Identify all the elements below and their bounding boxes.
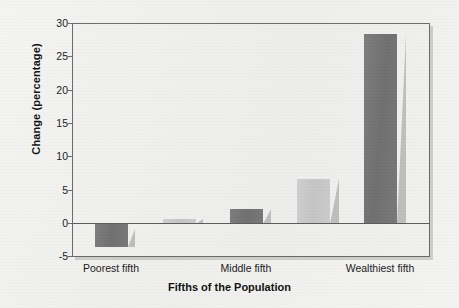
bar-shadow-poorest-fifth <box>128 229 135 247</box>
bar-fourth-fifth <box>297 179 330 224</box>
x-tick-label-middle-fifth: Middle fifth <box>221 262 272 274</box>
y-tick-mark-minus5 <box>68 256 73 257</box>
y-tick-label-15: 15 <box>42 118 68 128</box>
y-tick-label-minus5: -5 <box>42 251 68 261</box>
x-tick-label-poorest-fifth: Poorest fifth <box>83 262 139 274</box>
y-tick-mark-20 <box>68 90 73 91</box>
zero-baseline <box>72 223 430 224</box>
bar-body <box>364 34 397 224</box>
y-tick-mark-10 <box>68 156 73 157</box>
x-tick-label-wealthiest-fifth: Wealthiest fifth <box>346 262 415 274</box>
y-tick-mark-30 <box>68 23 73 24</box>
bar-wealthiest-fifth <box>364 34 397 224</box>
y-tick-label-10: 10 <box>42 151 68 161</box>
bar-middle-fifth <box>230 209 263 224</box>
bar-body <box>297 179 330 224</box>
y-tick-mark-5 <box>68 190 73 191</box>
bar-shadow-middle-fifth <box>263 209 271 224</box>
bar-body <box>95 224 128 247</box>
y-tick-label-30: 30 <box>42 18 68 28</box>
bar-poorest-fifth <box>95 224 128 247</box>
chart-figure: 30 25 20 15 10 5 0 -5 Change (percentage… <box>0 0 459 308</box>
y-tick-label-25: 25 <box>42 51 68 61</box>
y-axis: 30 25 20 15 10 5 0 -5 <box>38 0 68 308</box>
bar-body <box>230 209 263 224</box>
plot-area <box>72 23 430 257</box>
bar-shadow-wealthiest-fifth <box>397 34 406 224</box>
bar-shadow-fourth-fifth <box>330 179 339 224</box>
x-axis-title: Fifths of the Population <box>0 281 459 293</box>
y-tick-label-0: 0 <box>42 218 68 228</box>
y-axis-title: Change (percentage) <box>30 19 42 179</box>
y-tick-mark-0 <box>68 223 73 224</box>
y-tick-label-5: 5 <box>42 185 68 195</box>
y-tick-label-20: 20 <box>42 85 68 95</box>
y-tick-mark-25 <box>68 56 73 57</box>
y-tick-mark-15 <box>68 123 73 124</box>
